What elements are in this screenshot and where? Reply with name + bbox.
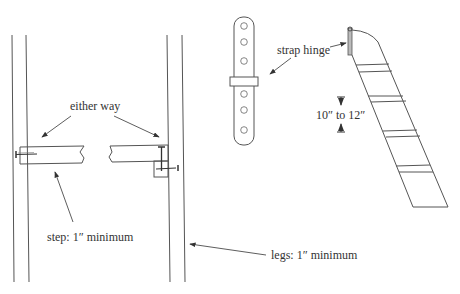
legs-callout: legs: 1″ minimum — [190, 244, 358, 262]
svg-text:legs: 1″ minimum: legs: 1″ minimum — [271, 248, 358, 262]
svg-text:10″ to 12″: 10″ to 12″ — [316, 108, 365, 122]
svg-text:step: 1″ minimum: step: 1″ minimum — [47, 230, 134, 244]
strap-hinge-callout: strap hinge — [270, 43, 346, 74]
step-left — [16, 146, 84, 164]
strap-hinge — [230, 17, 258, 145]
right-leg — [167, 35, 185, 282]
either-way-callout: either way — [42, 99, 159, 137]
nail-icon — [16, 151, 37, 158]
step-callout: step: 1″ minimum — [47, 172, 134, 244]
ladder-diagram: either way step: 1″ minimum legs: 1″ min… — [0, 0, 460, 294]
svg-text:either way: either way — [70, 99, 120, 113]
rung-spacing-dimension: 10″ to 12″ — [316, 97, 365, 132]
step-right — [109, 145, 178, 177]
screw-icon — [156, 147, 178, 171]
svg-text:strap hinge: strap hinge — [277, 43, 330, 57]
